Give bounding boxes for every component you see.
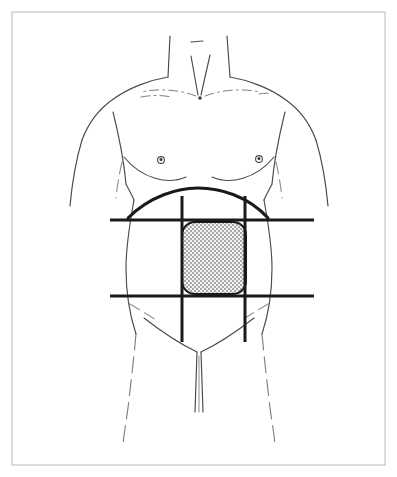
sternal-notch-marker <box>198 96 202 100</box>
epigastric-region <box>182 222 246 294</box>
epigastric-fill <box>182 222 246 294</box>
figure-root <box>0 0 397 477</box>
nipple-right <box>258 157 261 160</box>
anatomy-illustration <box>0 0 397 477</box>
nipple-left <box>160 158 163 161</box>
